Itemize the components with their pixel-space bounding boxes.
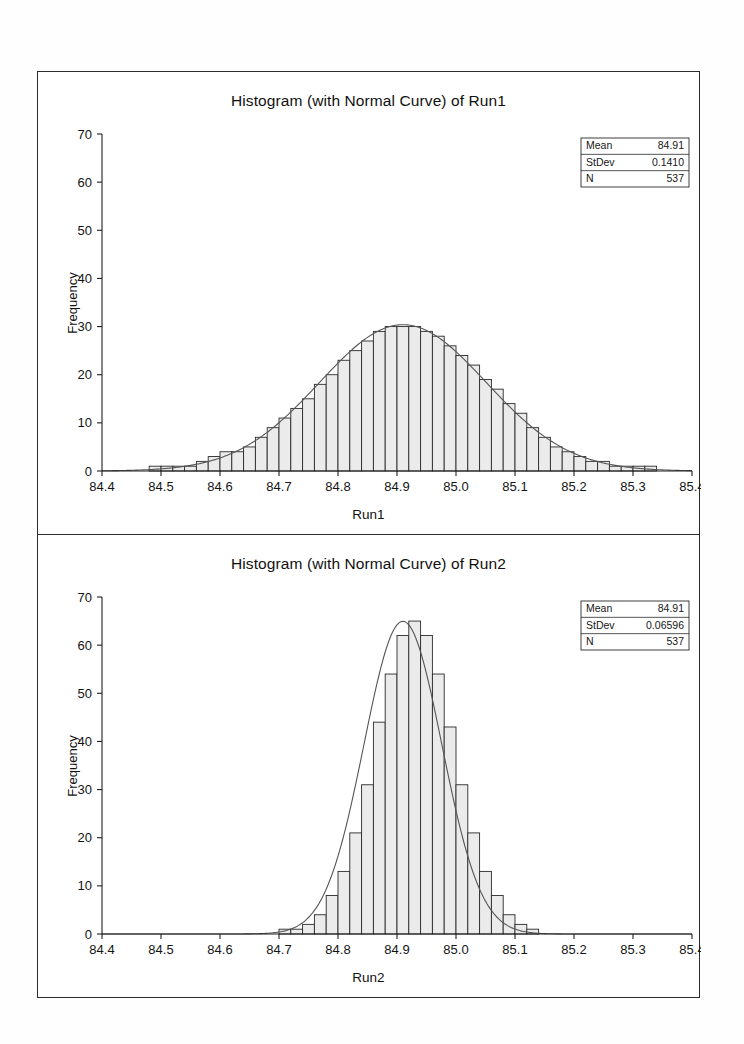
y-tick-label: 70 — [78, 127, 92, 142]
histogram-bar — [503, 404, 515, 471]
x-tick-label: 85.3 — [620, 479, 645, 494]
y-tick-label: 0 — [85, 927, 92, 942]
y-tick-label: 20 — [78, 367, 92, 382]
y-tick-label: 60 — [78, 638, 92, 653]
histogram-bar — [338, 871, 350, 934]
histogram-bar — [373, 722, 385, 934]
x-tick-label: 84.9 — [384, 942, 409, 957]
stats-legend-label: N — [586, 172, 594, 184]
stats-legend-value: 537 — [666, 172, 684, 184]
histogram-bar — [421, 331, 433, 471]
histogram-bar — [550, 447, 562, 471]
histogram-bar — [326, 895, 338, 934]
x-tick-label: 85.4 — [679, 479, 701, 494]
histogram-bar — [385, 674, 397, 934]
histogram-bar — [385, 327, 397, 471]
document-page: Histogram (with Normal Curve) of Run1 01… — [0, 0, 744, 1044]
histogram-bar — [185, 466, 197, 471]
stats-legend: Mean84.91StDev0.1410N537 — [581, 138, 689, 187]
stats-legend: Mean84.91StDev0.06596N537 — [581, 601, 689, 650]
histogram-bar — [491, 389, 503, 471]
histogram-svg-run1: 01020304050607084.484.584.684.784.884.98… — [38, 72, 701, 535]
histogram-bar — [303, 399, 315, 471]
x-tick-label: 85.1 — [502, 942, 527, 957]
x-tick-label: 84.4 — [89, 942, 114, 957]
histogram-bars — [279, 621, 539, 934]
histogram-bar — [456, 355, 468, 471]
histogram-bar — [539, 437, 551, 471]
x-tick-label: 84.5 — [148, 942, 173, 957]
histogram-bar — [409, 621, 421, 934]
y-tick-label: 20 — [78, 830, 92, 845]
x-tick-label: 84.4 — [89, 479, 114, 494]
histogram-bar — [409, 327, 421, 471]
x-tick-label: 85.4 — [679, 942, 701, 957]
plot-area-run2: 01020304050607084.484.584.684.784.884.98… — [38, 535, 699, 997]
histogram-bar — [373, 331, 385, 471]
histogram-bar — [586, 461, 598, 471]
y-tick-label: 60 — [78, 175, 92, 190]
stats-legend-value: 537 — [666, 635, 684, 647]
histogram-bar — [291, 408, 303, 471]
y-tick-label: 10 — [78, 878, 92, 893]
histogram-bar — [444, 346, 456, 471]
x-tick-label: 85.3 — [620, 942, 645, 957]
histogram-bar — [609, 466, 621, 471]
histogram-bar — [456, 785, 468, 934]
histogram-bar — [291, 929, 303, 934]
histogram-bar — [303, 924, 315, 934]
histogram-bar — [421, 636, 433, 934]
histogram-svg-run2: 01020304050607084.484.584.684.784.884.98… — [38, 535, 701, 998]
stats-legend-label: Mean — [586, 139, 612, 151]
histogram-bar — [350, 833, 362, 934]
histogram-bar — [267, 428, 279, 471]
y-tick-label: 0 — [85, 464, 92, 479]
stats-legend-value: 84.91 — [658, 139, 684, 151]
histogram-bar — [326, 375, 338, 471]
y-tick-label: 50 — [78, 686, 92, 701]
histogram-bar — [338, 360, 350, 471]
histogram-bar — [314, 384, 326, 471]
x-tick-label: 84.7 — [266, 942, 291, 957]
histogram-bar — [362, 341, 374, 471]
histogram-bar — [244, 447, 256, 471]
histogram-bar — [255, 437, 267, 471]
x-tick-label: 85.2 — [561, 479, 586, 494]
histogram-bar — [397, 327, 409, 471]
histogram-bar — [432, 674, 444, 934]
plot-area-run1: 01020304050607084.484.584.684.784.884.98… — [38, 72, 699, 534]
x-tick-label: 84.7 — [266, 479, 291, 494]
x-tick-label: 84.8 — [325, 942, 350, 957]
histogram-bar — [574, 457, 586, 471]
histogram-bar — [491, 895, 503, 934]
y-tick-label: 70 — [78, 590, 92, 605]
x-axis-label-run1: Run1 — [38, 507, 699, 522]
y-tick-label: 50 — [78, 223, 92, 238]
histogram-bar — [397, 636, 409, 934]
histogram-bar — [562, 452, 574, 471]
x-tick-label: 84.6 — [207, 479, 232, 494]
histogram-bars — [149, 327, 656, 471]
stats-legend-value: 84.91 — [658, 602, 684, 614]
histogram-bar — [480, 871, 492, 934]
stats-legend-label: StDev — [586, 156, 615, 168]
stats-legend-label: N — [586, 635, 594, 647]
chart-panel-run1: Histogram (with Normal Curve) of Run1 01… — [38, 72, 699, 535]
histogram-bar — [480, 380, 492, 471]
histogram-bar — [232, 452, 244, 471]
x-tick-label: 84.9 — [384, 479, 409, 494]
histogram-bar — [527, 428, 539, 471]
histogram-bar — [468, 833, 480, 934]
histogram-bar — [279, 418, 291, 471]
stats-legend-label: Mean — [586, 602, 612, 614]
x-tick-label: 85.2 — [561, 942, 586, 957]
x-tick-label: 84.6 — [207, 942, 232, 957]
stats-legend-label: StDev — [586, 619, 615, 631]
stats-legend-value: 0.1410 — [652, 156, 684, 168]
x-axis-label-run2: Run2 — [38, 970, 699, 985]
stats-legend-value: 0.06596 — [646, 619, 684, 631]
histogram-bar — [362, 785, 374, 934]
histogram-bar — [468, 365, 480, 471]
x-tick-label: 85.0 — [443, 942, 468, 957]
charts-frame: Histogram (with Normal Curve) of Run1 01… — [37, 71, 700, 998]
